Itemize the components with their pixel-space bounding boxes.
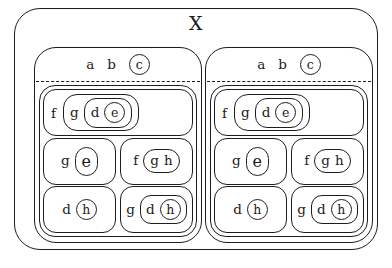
label-g: g [150, 154, 159, 168]
circled-atom-c: c [300, 54, 321, 75]
row-f-g-d-e: f g d e [43, 89, 193, 136]
atom-b: b [107, 58, 116, 72]
group-g-h: g h [143, 149, 179, 173]
label-g: g [61, 154, 70, 168]
label-d: d [233, 203, 242, 217]
cell-g-d-h: g d h [291, 186, 364, 233]
cell-f-gh: f g h [120, 138, 193, 185]
circled-atom-e: e [246, 147, 269, 176]
label-g: g [321, 154, 330, 168]
diagram-canvas: X a b c f g d e [0, 0, 392, 268]
panel-right: a b c f g d e [205, 47, 373, 243]
label-h: h [335, 154, 344, 168]
nest-d: d e [255, 98, 304, 128]
label-g: g [241, 106, 250, 120]
row-dh-gdh: d h g d h [214, 186, 364, 233]
label-h: h [164, 154, 173, 168]
circled-atom-h: h [247, 199, 268, 220]
universe-label: X [15, 14, 377, 33]
label-g: g [232, 154, 241, 168]
atom-b: b [278, 58, 287, 72]
universe-set-X: X a b c f g d e [14, 8, 378, 250]
label-g: g [126, 203, 135, 217]
nest-g: g d e [63, 94, 139, 131]
label-f: f [44, 105, 60, 121]
label-f: f [215, 105, 231, 121]
panel-left: a b c f g d e [34, 47, 202, 243]
cell-g-d-h: g d h [120, 186, 193, 233]
circled-atom-e: e [104, 102, 125, 123]
label-d: d [317, 203, 326, 217]
row-ge-fgh: g e f g h [214, 138, 364, 185]
dashed-separator [36, 81, 200, 82]
cell-g-e: g e [214, 138, 287, 185]
cell-g-e: g e [43, 138, 116, 185]
label-d: d [91, 106, 100, 120]
label-g: g [70, 106, 79, 120]
circled-atom-h: h [76, 199, 97, 220]
panel-right-rows-container: f g d e g e f [210, 85, 368, 237]
circled-atom-h: h [160, 199, 181, 220]
row-dh-gdh: d h g d h [43, 186, 193, 233]
panel-left-rows-container: f g d e g e f [39, 85, 197, 237]
label-g: g [297, 203, 306, 217]
panel-right-header: a b c [206, 48, 372, 81]
label-d: d [262, 106, 271, 120]
nest-d: d h [311, 195, 358, 224]
atom-a: a [86, 58, 94, 72]
circled-atom-h: h [331, 199, 352, 220]
cell-d-h: d h [214, 186, 287, 233]
row-ge-fgh: g e f g h [43, 138, 193, 185]
nest-g: g d e [234, 94, 310, 131]
panel-left-header: a b c [35, 48, 201, 81]
row-f-g-d-e: f g d e [214, 89, 364, 136]
nest-d: d h [140, 195, 187, 224]
dashed-separator [207, 81, 371, 82]
group-g-h: g h [314, 149, 350, 173]
cell-f-gh: f g h [291, 138, 364, 185]
atom-a: a [257, 58, 265, 72]
cell-d-h: d h [43, 186, 116, 233]
label-f: f [304, 154, 309, 168]
label-d: d [62, 203, 71, 217]
nest-d: d e [84, 98, 133, 128]
circled-atom-e: e [275, 102, 296, 123]
label-d: d [146, 203, 155, 217]
circled-atom-c: c [129, 54, 150, 75]
label-f: f [133, 154, 138, 168]
circled-atom-e: e [75, 147, 98, 176]
